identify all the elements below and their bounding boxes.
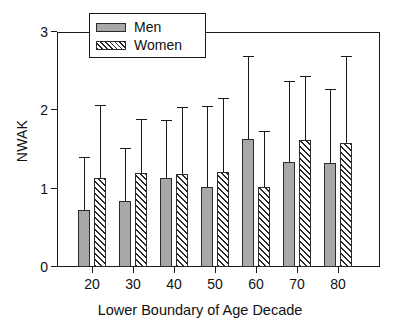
x-tick-80 xyxy=(338,267,339,273)
bar-men-70 xyxy=(283,162,295,267)
bar-women-20 xyxy=(94,178,106,267)
y-tick-label-1: 1 xyxy=(8,182,48,196)
x-tick-label-20: 20 xyxy=(72,277,112,292)
x-tick-label-70: 70 xyxy=(277,277,317,292)
bar-women-70 xyxy=(299,140,311,267)
errorbar-stem-men-80 xyxy=(330,89,331,163)
legend-label-men: Men xyxy=(134,20,161,35)
errorbar-cap-women-70 xyxy=(300,76,311,77)
errorbar-cap-men-80 xyxy=(325,89,336,90)
x-tick-label-80: 80 xyxy=(318,277,358,292)
y-tick-2 xyxy=(51,109,57,110)
y-tick-0 xyxy=(51,266,57,267)
errorbar-stem-women-50 xyxy=(223,98,224,172)
errorbar-cap-men-50 xyxy=(202,106,213,107)
errorbar-cap-women-30 xyxy=(136,119,147,120)
errorbar-cap-men-40 xyxy=(161,120,172,121)
x-tick-40 xyxy=(174,267,175,273)
errorbar-cap-women-80 xyxy=(341,56,352,57)
errorbar-cap-women-60 xyxy=(259,131,270,132)
errorbar-stem-men-30 xyxy=(125,148,126,201)
x-tick-50 xyxy=(215,267,216,273)
bar-men-60 xyxy=(242,139,254,267)
errorbar-cap-men-20 xyxy=(79,157,90,158)
errorbar-cap-women-20 xyxy=(95,105,106,106)
bar-men-40 xyxy=(160,178,172,267)
errorbar-stem-women-60 xyxy=(264,131,265,187)
bar-women-30 xyxy=(135,173,147,267)
men-swatch-icon xyxy=(96,23,126,32)
y-tick-1 xyxy=(51,188,57,189)
bar-women-50 xyxy=(217,172,229,267)
bar-men-80 xyxy=(324,163,336,267)
errorbar-stem-men-40 xyxy=(166,120,167,178)
x-tick-label-40: 40 xyxy=(154,277,194,292)
errorbar-stem-men-50 xyxy=(207,106,208,187)
errorbar-cap-men-70 xyxy=(284,81,295,82)
x-tick-30 xyxy=(133,267,134,273)
errorbar-stem-women-30 xyxy=(141,119,142,173)
errorbar-stem-men-60 xyxy=(248,56,249,138)
y-tick-label-3: 3 xyxy=(8,25,48,39)
bar-men-30 xyxy=(119,201,131,267)
chart-legend: Men Women xyxy=(89,13,206,58)
legend-item-women: Women xyxy=(96,36,199,54)
women-swatch-icon xyxy=(96,41,126,50)
errorbar-cap-men-30 xyxy=(120,148,131,149)
errorbar-stem-women-70 xyxy=(305,76,306,140)
errorbar-stem-women-80 xyxy=(346,56,347,143)
bar-women-60 xyxy=(258,187,270,267)
legend-item-men: Men xyxy=(96,18,199,36)
errorbar-stem-women-20 xyxy=(100,105,101,178)
legend-label-women: Women xyxy=(134,38,182,53)
x-tick-60 xyxy=(256,267,257,273)
bar-men-20 xyxy=(78,210,90,267)
bar-women-80 xyxy=(340,143,352,267)
y-tick-3 xyxy=(51,31,57,32)
bar-women-40 xyxy=(176,174,188,267)
errorbar-cap-women-40 xyxy=(177,107,188,108)
x-tick-label-60: 60 xyxy=(236,277,276,292)
x-tick-label-50: 50 xyxy=(195,277,235,292)
x-axis-title: Lower Boundary of Age Decade xyxy=(0,302,400,318)
y-tick-label-0: 0 xyxy=(8,260,48,274)
x-tick-20 xyxy=(92,267,93,273)
x-tick-label-30: 30 xyxy=(113,277,153,292)
errorbar-cap-women-50 xyxy=(218,98,229,99)
errorbar-cap-men-60 xyxy=(243,56,254,57)
y-tick-label-2: 2 xyxy=(8,103,48,117)
errorbar-stem-men-70 xyxy=(289,81,290,162)
errorbar-stem-men-20 xyxy=(84,157,85,209)
bar-chart-figure: NWAK 0123 20304050607080 Lower Boundary … xyxy=(0,0,400,331)
errorbar-stem-women-40 xyxy=(182,107,183,174)
x-tick-70 xyxy=(297,267,298,273)
bar-men-50 xyxy=(201,187,213,267)
